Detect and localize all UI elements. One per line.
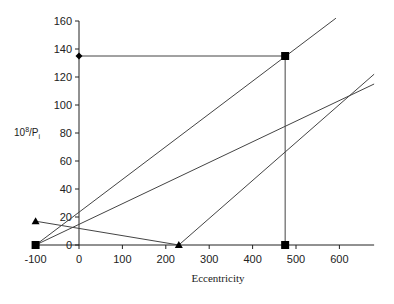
- x-tick-label: -100: [25, 253, 47, 265]
- x-tick-label: 500: [287, 253, 305, 265]
- triangle-marker: [32, 217, 40, 224]
- square-marker: [281, 241, 289, 249]
- diamond-marker: [76, 53, 83, 60]
- y-tick-label: 120: [54, 71, 72, 83]
- line-4: [36, 221, 179, 245]
- y-tick-label: 20: [60, 211, 72, 223]
- x-tick-label: 300: [200, 253, 218, 265]
- y-tick-label: 60: [60, 155, 72, 167]
- axes: [36, 21, 375, 249]
- square-marker: [281, 52, 289, 60]
- line-3: [179, 74, 374, 245]
- y-tick-label: 80: [60, 127, 72, 139]
- line-1: [36, 18, 336, 245]
- x-tick-label: 400: [243, 253, 261, 265]
- x-tick-label: 600: [330, 253, 348, 265]
- y-tick-label: 160: [54, 15, 72, 27]
- y-tick-label: 40: [60, 183, 72, 195]
- x-tick-label: 100: [113, 253, 131, 265]
- series-lines: [36, 18, 375, 245]
- x-tick-label: 200: [157, 253, 175, 265]
- square-marker: [32, 241, 40, 249]
- chart: -100010020030040050060002040608010012014…: [0, 0, 394, 304]
- y-tick-label: 100: [54, 99, 72, 111]
- y-tick-label: 140: [54, 43, 72, 55]
- line-2: [36, 84, 375, 245]
- x-axis-title: Eccentricity: [191, 272, 245, 284]
- x-tick-label: 0: [76, 253, 82, 265]
- y-axis-title: 108/Pi: [14, 126, 40, 140]
- y-tick-label: 0: [66, 239, 72, 251]
